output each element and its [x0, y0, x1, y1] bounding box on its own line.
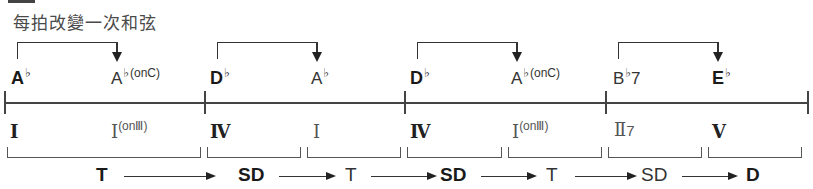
- measure-tick: [807, 91, 809, 114]
- arrow-right-icon: [682, 176, 736, 177]
- function-bracket: [307, 147, 401, 158]
- chord-symbol: E♭: [712, 66, 732, 89]
- function-bracket: [407, 147, 502, 158]
- function-label: SD: [440, 164, 466, 186]
- chord-symbol: D♭: [210, 66, 231, 89]
- roman-numeral: I(onⅢ): [512, 119, 548, 142]
- measure-tick: [4, 91, 6, 114]
- timeline-axis: [4, 102, 808, 104]
- chord-symbol: A♭: [311, 66, 330, 89]
- chord-symbol: A♭(onC): [511, 66, 560, 89]
- roman-numeral: I: [10, 119, 18, 142]
- function-label: T: [546, 164, 558, 186]
- function-bracket: [508, 147, 602, 158]
- chord-symbol: A♭(onC): [111, 66, 160, 89]
- chord-symbol: B♭7: [613, 66, 640, 89]
- arrow-right-icon: [371, 176, 435, 177]
- function-label: T: [345, 164, 357, 186]
- roman-numeral: Ⅴ: [712, 119, 726, 142]
- arrow-down-icon: [512, 52, 522, 62]
- function-bracket: [207, 147, 301, 158]
- arrow-down-icon: [312, 52, 322, 62]
- measure-tick: [204, 91, 206, 114]
- chord-change-connector: [217, 42, 318, 59]
- function-bracket: [7, 147, 201, 158]
- function-label: SD: [238, 164, 264, 186]
- measure-tick: [404, 91, 406, 114]
- function-label: T: [96, 164, 108, 186]
- chord-symbol: D♭: [410, 66, 431, 89]
- arrow-right-icon: [481, 176, 535, 177]
- arrow-down-icon: [713, 52, 723, 62]
- chord-change-connector: [417, 42, 518, 59]
- roman-numeral: I: [313, 119, 320, 142]
- roman-numeral: Ⅱ7: [614, 119, 635, 140]
- function-label: SD: [641, 164, 667, 186]
- header-bar: [8, 0, 35, 3]
- function-bracket: [708, 147, 802, 158]
- roman-numeral: Ⅳ: [210, 119, 230, 142]
- chord-change-connector: [17, 42, 118, 59]
- caption: 每拍改變一次和弦: [13, 9, 157, 34]
- roman-numeral: I(onⅢ): [111, 119, 147, 142]
- roman-numeral: Ⅳ: [410, 119, 430, 142]
- function-bracket: [608, 147, 702, 158]
- arrow-right-icon: [575, 176, 635, 177]
- arrow-down-icon: [112, 52, 122, 62]
- arrow-right-icon: [279, 176, 334, 177]
- arrow-right-icon: [124, 176, 214, 177]
- chord-change-connector: [618, 42, 719, 59]
- function-label: D: [746, 164, 760, 186]
- measure-tick: [605, 91, 607, 114]
- chord-symbol: A♭: [11, 66, 32, 89]
